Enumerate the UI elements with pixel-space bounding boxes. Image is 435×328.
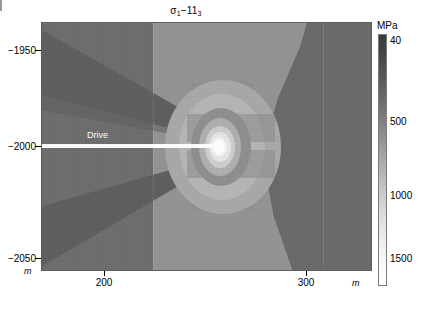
x-tick-mark bbox=[104, 271, 105, 276]
y-tick-label: −2000 bbox=[0, 141, 36, 152]
contour-plot-area: Drive bbox=[41, 22, 372, 271]
drive-label: Drive bbox=[87, 130, 108, 141]
x-tick-label: 200 bbox=[96, 277, 113, 289]
colorbar-unit-label: MPa bbox=[377, 20, 398, 32]
y-axis-unit: m bbox=[24, 266, 32, 277]
field-seam-right bbox=[323, 22, 324, 271]
title-minus: −1 bbox=[181, 5, 192, 16]
colorbar-tick-label: 500 bbox=[390, 117, 407, 127]
y-tick-label: −2050 bbox=[0, 253, 36, 264]
drive-line bbox=[41, 144, 221, 148]
x-axis-unit: m bbox=[352, 278, 360, 289]
stress-contour-figure: σ1−113 Drive −1950 −2000 −2050 m 200 bbox=[0, 0, 435, 328]
colorbar bbox=[378, 34, 387, 286]
colorbar-tick-label: 1500 bbox=[390, 254, 412, 264]
title-subscript-3: 3 bbox=[198, 10, 202, 17]
y-tick-label: −1950 bbox=[0, 45, 36, 56]
colorbar-tick-label: 1000 bbox=[390, 191, 412, 201]
plot-title: σ1−113 bbox=[0, 5, 372, 20]
x-tick-mark bbox=[306, 271, 307, 276]
colorbar-tick-label: 40 bbox=[390, 36, 401, 46]
x-tick-label: 300 bbox=[298, 277, 315, 289]
